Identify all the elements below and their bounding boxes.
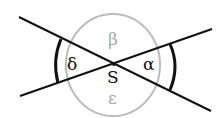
angles-diagram: δ α β ε S: [0, 0, 219, 118]
label-beta: β: [108, 29, 118, 49]
label-delta: δ: [67, 54, 77, 74]
delta-arc: [56, 39, 61, 83]
alpha-arc: [170, 44, 175, 90]
label-vertex: S: [107, 67, 119, 87]
label-alpha: α: [143, 54, 155, 74]
vertex-point: [112, 62, 116, 66]
label-epsilon: ε: [108, 88, 117, 108]
